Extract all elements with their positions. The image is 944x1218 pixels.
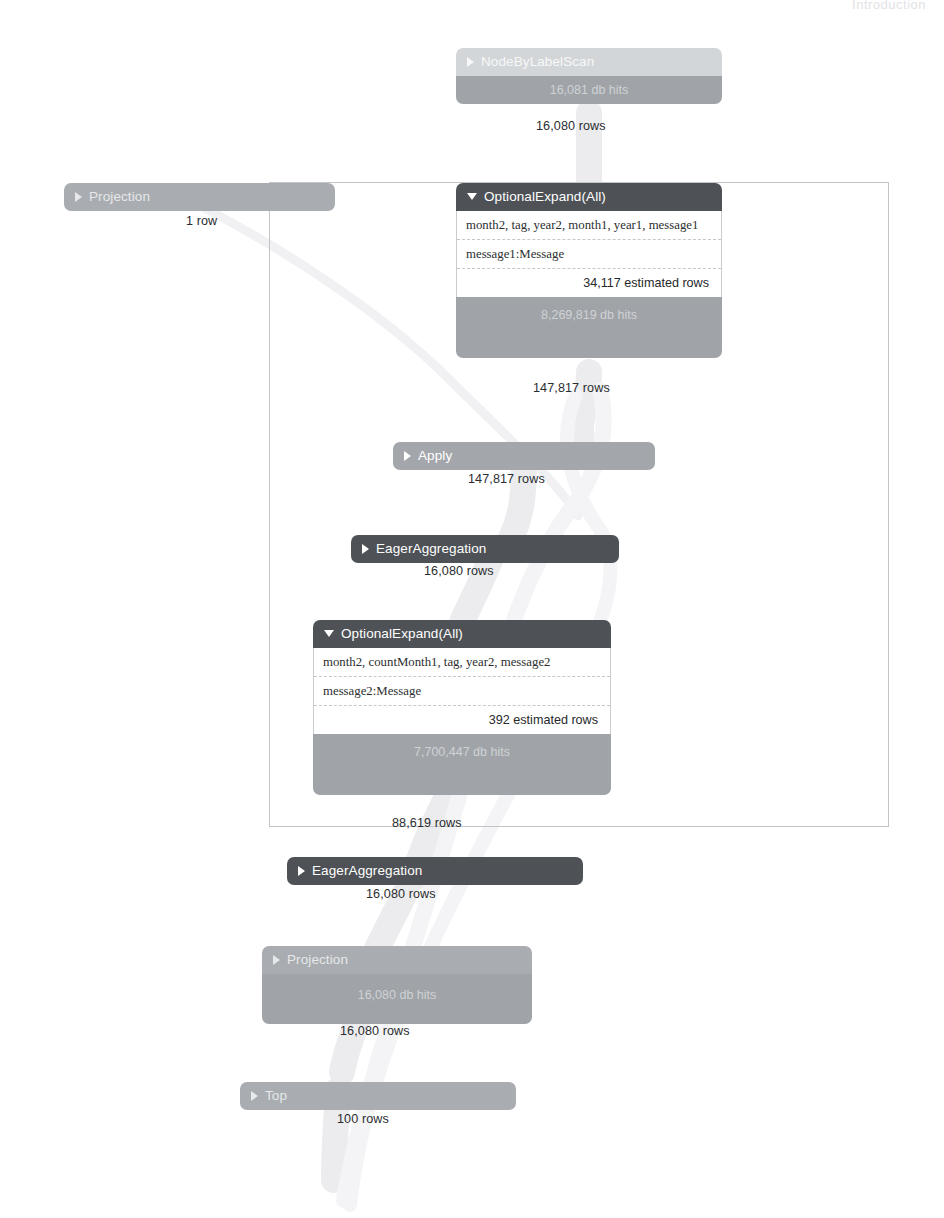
operator-estimated-rows: 392 estimated rows <box>314 706 610 734</box>
operator-apply[interactable]: Apply <box>393 442 655 470</box>
operator-title: OptionalExpand(All) <box>484 189 606 204</box>
caret-right-icon[interactable] <box>467 57 474 67</box>
operator-db-hits: 7,700,447 db hits <box>313 734 611 795</box>
caret-right-icon[interactable] <box>273 955 280 965</box>
operator-identifiers: month2, countMonth1, tag, year2, message… <box>314 648 610 677</box>
caret-down-icon[interactable] <box>324 630 334 637</box>
operator-detail: month2, tag, year2, month1, year1, messa… <box>456 211 722 297</box>
operator-title: EagerAggregation <box>312 863 422 878</box>
operator-title: OptionalExpand(All) <box>341 626 463 641</box>
caret-right-icon[interactable] <box>404 451 411 461</box>
rows-label-node-by-label-scan: 16,080 rows <box>536 119 606 133</box>
operator-title: Projection <box>89 189 150 204</box>
operator-title: Projection <box>287 952 348 967</box>
rows-label-optional-expand-1: 147,817 rows <box>533 381 610 395</box>
operator-header[interactable]: OptionalExpand(All) <box>313 620 611 648</box>
operator-header[interactable]: OptionalExpand(All) <box>456 183 722 211</box>
operator-title: NodeByLabelScan <box>481 54 594 69</box>
operator-header[interactable]: Apply <box>393 442 655 470</box>
operator-top[interactable]: Top <box>240 1082 516 1110</box>
operator-optional-expand-all-1[interactable]: OptionalExpand(All) month2, tag, year2, … <box>456 183 722 358</box>
operator-db-hits: 8,269,819 db hits <box>456 297 722 358</box>
operator-header[interactable]: EagerAggregation <box>287 857 583 885</box>
rows-label-projection-top: 1 row <box>186 214 217 228</box>
caret-right-icon[interactable] <box>362 544 369 554</box>
operator-db-hits: 16,080 db hits <box>262 974 532 1024</box>
caret-right-icon[interactable] <box>298 866 305 876</box>
rows-label-eager-aggregation-1: 16,080 rows <box>424 564 494 578</box>
operator-identifiers: month2, tag, year2, month1, year1, messa… <box>457 211 721 240</box>
operator-header[interactable]: NodeByLabelScan <box>456 48 722 76</box>
rows-label-eager-aggregation-2: 16,080 rows <box>366 887 436 901</box>
operator-detail: month2, countMonth1, tag, year2, message… <box>313 648 611 734</box>
operator-pattern: message2:Message <box>314 677 610 706</box>
rows-label-top: 100 rows <box>337 1112 389 1126</box>
operator-header[interactable]: Projection <box>262 946 532 974</box>
operator-projection-top[interactable]: Projection <box>64 183 335 211</box>
operator-header[interactable]: Top <box>240 1082 516 1110</box>
operator-pattern: message1:Message <box>457 240 721 269</box>
caret-down-icon[interactable] <box>467 193 477 200</box>
operator-header[interactable]: Projection <box>64 183 335 211</box>
operator-db-hits: 16,081 db hits <box>456 76 722 104</box>
operator-title: EagerAggregation <box>376 541 486 556</box>
rows-label-optional-expand-2: 88,619 rows <box>392 816 462 830</box>
operator-header[interactable]: EagerAggregation <box>351 535 619 563</box>
operator-optional-expand-all-2[interactable]: OptionalExpand(All) month2, countMonth1,… <box>313 620 611 795</box>
operator-eager-aggregation-2[interactable]: EagerAggregation <box>287 857 583 885</box>
operator-estimated-rows: 34,117 estimated rows <box>457 269 721 297</box>
rows-label-projection-bottom: 16,080 rows <box>340 1024 410 1038</box>
caret-right-icon[interactable] <box>75 192 82 202</box>
operator-node-by-label-scan[interactable]: NodeByLabelScan 16,081 db hits <box>456 48 722 104</box>
caret-right-icon[interactable] <box>251 1091 258 1101</box>
operator-eager-aggregation-1[interactable]: EagerAggregation <box>351 535 619 563</box>
rows-label-apply: 147,817 rows <box>468 472 545 486</box>
operator-title: Apply <box>418 448 452 463</box>
operator-projection-bottom[interactable]: Projection 16,080 db hits <box>262 946 532 1024</box>
operator-title: Top <box>265 1088 287 1103</box>
